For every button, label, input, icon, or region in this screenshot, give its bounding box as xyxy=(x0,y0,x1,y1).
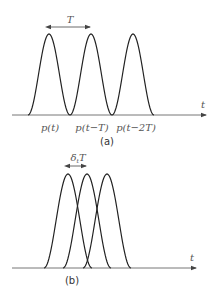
pulse-label-2: p(t−2T) xyxy=(116,122,156,133)
axis-label-t-b: t xyxy=(190,252,195,263)
pulse-curve-2 xyxy=(112,34,154,115)
period-label: T xyxy=(67,14,75,25)
pulse-train-b xyxy=(44,174,131,268)
pulse-curve-1 xyxy=(63,174,111,268)
pulse-curve-2 xyxy=(83,174,131,268)
pulse-train-a xyxy=(28,34,154,115)
pulse-label-1: p(t−T) xyxy=(75,122,108,133)
caption-a: (a) xyxy=(100,136,114,147)
axis-label-t-a: t xyxy=(201,99,206,110)
pulse-curve-1 xyxy=(70,34,112,115)
pulse-curve-0 xyxy=(28,34,70,115)
panel-a: T t p(t) p(t−T) p(t−2T) (a) xyxy=(12,14,206,147)
offset-label: δtT xyxy=(70,152,86,164)
pulse-label-0: p(t) xyxy=(41,122,59,133)
pulse-curve-0 xyxy=(44,174,92,268)
caption-b: (b) xyxy=(65,275,79,286)
panel-b: δtT t (b) xyxy=(12,152,196,286)
diagram-canvas: T t p(t) p(t−T) p(t−2T) (a) δtT t (b) xyxy=(0,0,214,294)
